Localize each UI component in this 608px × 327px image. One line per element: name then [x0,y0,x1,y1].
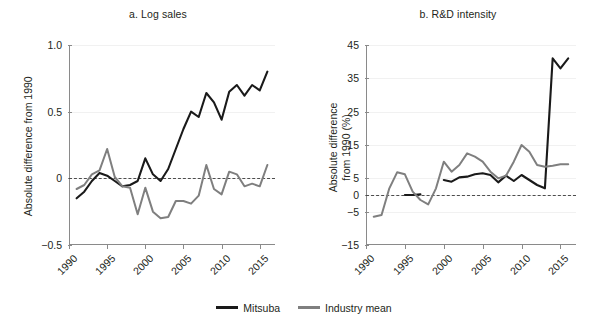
panel-b-title: b. R&D intensity [304,8,608,20]
x-axis-tick [366,245,367,249]
y-axis-tick-label: 45 [347,39,359,51]
x-axis-tick [522,245,523,249]
panel-a-y-axis-label: Absolute difference from 1990 [22,61,35,231]
legend-line-swatch-industry-mean [298,306,320,309]
series-line-mitsuba [444,58,568,188]
y-axis-tick-label: 0 [353,189,359,201]
x-axis-tick [560,245,561,249]
x-axis-tick [145,245,146,249]
x-axis-tick [405,245,406,249]
x-axis-tick-label: 1995 [384,252,415,283]
x-axis-tick [183,245,184,249]
legend-line-swatch-mitsuba [216,306,238,309]
x-axis-tick-label: 1990 [345,252,376,283]
series-line-industry-mean [374,145,568,217]
y-axis-tick-label: 0.5 [47,106,62,118]
x-axis-tick-label: 2015 [540,252,571,283]
legend-label-industry-mean: Industry mean [325,303,392,314]
y-axis-tick-label: 35 [347,72,359,84]
panel-b-plot-area: 4535251550−5−15199019952000200520102015 [366,45,576,245]
series-line-mitsuba [77,72,268,199]
y-axis-tick-label: −5 [347,206,359,218]
x-axis-tick-label: 2005 [462,252,493,283]
x-axis-tick-label: 2015 [239,252,270,283]
x-axis-tick [107,245,108,249]
y-axis-tick-label: 0 [56,172,62,184]
x-axis-tick [69,245,70,249]
y-axis-tick-label: 25 [347,106,359,118]
x-axis-tick [260,245,261,249]
x-axis-tick [444,245,445,249]
x-axis-tick-label: 2000 [423,252,454,283]
x-axis-tick-label: 1990 [48,252,79,283]
series-layer [69,45,275,245]
x-axis-tick-label: 2010 [501,252,532,283]
y-axis-tick-label: −15 [341,239,359,251]
y-axis-tick-label: 1.0 [47,39,62,51]
panel-a-title: a. Log sales [8,8,308,20]
x-axis-tick [483,245,484,249]
legend-item-industry-mean[interactable]: Industry mean [298,303,392,314]
panel-a-plot-area: 1.00.50−0.5199019952000200520102015 [69,45,275,245]
x-axis-tick-label: 2005 [163,252,194,283]
chart-legend: Mitsuba Industry mean [0,303,608,314]
legend-label-mitsuba: Mitsuba [243,303,280,314]
series-layer [366,45,576,245]
y-axis-tick-label: 5 [353,172,359,184]
x-axis-tick [222,245,223,249]
x-axis-tick-label: 2010 [201,252,232,283]
y-axis-tick-label: −0.5 [41,239,62,251]
series-line-mitsuba [405,194,421,195]
figure-root: a. Log sales Absolute difference from 19… [0,0,608,327]
chart-panel-b: b. R&D intensity Absolute difference fro… [300,0,608,300]
legend-item-mitsuba[interactable]: Mitsuba [216,303,280,314]
chart-panel-a: a. Log sales Absolute difference from 19… [0,0,300,300]
x-axis-tick-label: 1995 [87,252,118,283]
x-axis-tick-label: 2000 [125,252,156,283]
y-axis-tick-label: 15 [347,139,359,151]
